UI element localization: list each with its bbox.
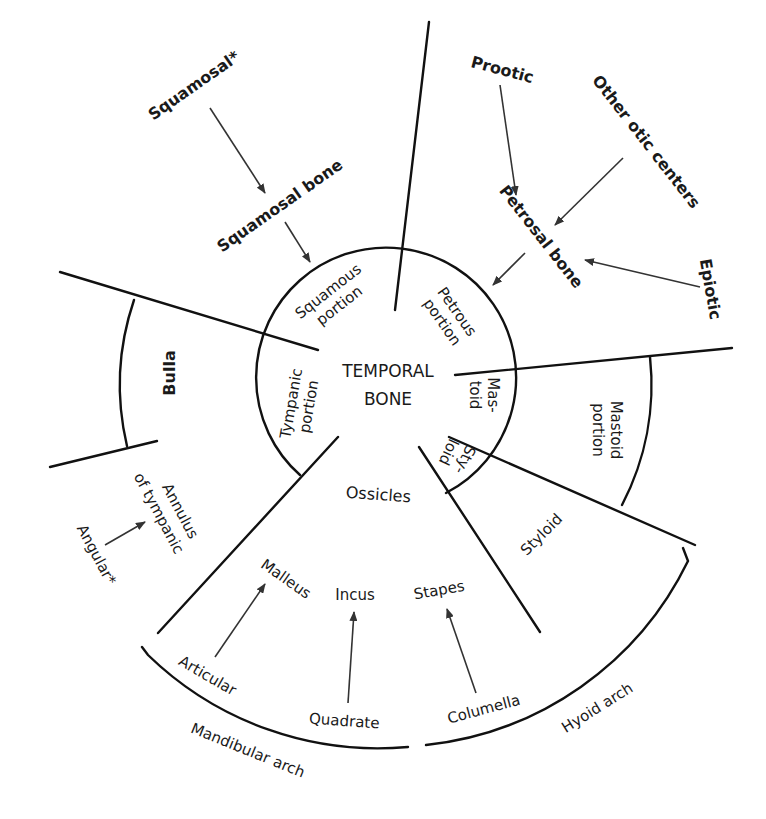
arrow-quadrate [348, 612, 354, 703]
mastoid-portion-label: Mastoid portion [589, 401, 625, 460]
arrow-articular [215, 584, 265, 657]
temporal-bone-diagram: TEMPORAL BONE Squamous portion Petrous p… [0, 0, 766, 819]
arrow-prootic [500, 85, 516, 195]
styloid-outer-label: Styloid [517, 510, 566, 559]
petrosal-bone-label: Petrosal bone [495, 181, 587, 291]
epiotic-label: Epiotic [696, 257, 725, 321]
squamosal-bone-label: Squamosal bone [213, 155, 346, 256]
angular-star-label: Angular* [73, 521, 120, 588]
bulla-annulus-divider [50, 441, 157, 467]
petrous-portion-label: Petrous portion [419, 284, 481, 351]
annulus-label: Annulus of tympanic [130, 460, 205, 557]
styloid-inner-label: Sty- loid [434, 435, 479, 477]
arrow-squamosal-to-bone [210, 108, 265, 193]
squamous-tympanic-divider [60, 272, 318, 350]
other-otic-centers-label: Other otic centers [588, 71, 704, 212]
center-label-line2: BONE [364, 389, 412, 409]
prootic-label: Prootic [469, 52, 536, 87]
tympanic-portion-label: Tympanic portion [276, 367, 324, 444]
mandibular-arch-label: Mandibular arch [188, 719, 307, 781]
arrow-other-otic [555, 158, 623, 225]
malleus-label: Malleus [257, 555, 314, 603]
quadrate-label: Quadrate [309, 710, 381, 733]
squamous-petrous-divider [395, 22, 429, 310]
arrow-angular [105, 522, 145, 545]
arrow-epiotic [585, 260, 700, 287]
ossicles-styloid-divider [419, 447, 540, 632]
squamosal-star-label: Squamosal* [145, 47, 244, 124]
arrow-squamosal-bone-to-portion [285, 222, 310, 262]
stapes-label: Stapes [412, 577, 466, 604]
center-label-line1: TEMPORAL [341, 361, 434, 381]
incus-label: Incus [335, 586, 375, 604]
mastoid-arc [622, 357, 651, 505]
mastoid-inner-label: Mas- toid [466, 377, 502, 412]
articular-label: Articular [175, 652, 240, 700]
arrow-columella [447, 609, 476, 693]
svg-text:Mastoid: Mastoid [607, 401, 625, 460]
arrow-petrosal-to-portion [493, 253, 525, 285]
ossicles-label: Ossicles [345, 483, 411, 506]
petrous-mastoid-divider [455, 348, 732, 375]
hyoid-arch-label: Hyoid arch [558, 679, 636, 737]
svg-text:toid: toid [466, 381, 484, 410]
mastoid-styloid-divider [449, 437, 695, 545]
svg-text:portion: portion [589, 403, 607, 457]
columella-label: Columella [445, 691, 522, 728]
bulla-arc [120, 300, 134, 446]
svg-text:Mas-: Mas- [484, 377, 502, 412]
bulla-label: Bulla [160, 350, 179, 395]
squamous-portion-label: Squamous portion [292, 260, 376, 337]
